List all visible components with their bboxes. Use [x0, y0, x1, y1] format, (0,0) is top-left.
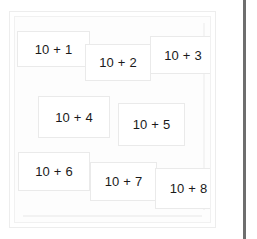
card-label: 10 + 3 — [164, 49, 202, 62]
card-2[interactable]: 10 + 2 — [85, 44, 151, 81]
card-3[interactable]: 10 + 3 — [150, 36, 211, 74]
card-5[interactable]: 10 + 5 — [118, 103, 185, 146]
card-8[interactable]: 10 + 8 — [155, 168, 211, 209]
card-4[interactable]: 10 + 4 — [38, 96, 110, 138]
card-1[interactable]: 10 + 1 — [17, 31, 90, 67]
card-label: 10 + 4 — [55, 111, 93, 124]
card-label: 10 + 8 — [170, 182, 208, 195]
panel-inner-base — [23, 215, 202, 217]
card-label: 10 + 6 — [35, 165, 73, 178]
card-label: 10 + 5 — [133, 118, 171, 131]
card-6[interactable]: 10 + 6 — [18, 152, 90, 191]
right-gutter — [246, 0, 257, 239]
right-padding — [216, 0, 243, 239]
card-board[interactable]: 10 + 110 + 210 + 310 + 410 + 510 + 610 +… — [14, 16, 211, 223]
card-7[interactable]: 10 + 7 — [90, 162, 157, 201]
card-label: 10 + 1 — [35, 43, 73, 56]
card-label: 10 + 7 — [105, 175, 143, 188]
outer-frame: 10 + 110 + 210 + 310 + 410 + 510 + 610 +… — [9, 11, 216, 228]
screenshot-stage: 10 + 110 + 210 + 310 + 410 + 510 + 610 +… — [0, 0, 257, 239]
card-label: 10 + 2 — [99, 56, 137, 69]
